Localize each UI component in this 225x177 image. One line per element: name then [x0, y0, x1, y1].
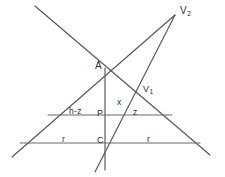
- vertex-label-v2-subscript: 2: [187, 10, 191, 17]
- vertex-label-c: C: [97, 136, 104, 145]
- vertex-label-v2: V2: [180, 6, 191, 16]
- segment-label-z: z: [133, 108, 138, 117]
- vertex-label-v2-letter: V: [180, 5, 187, 16]
- segment-label-x: x: [117, 98, 122, 107]
- line-upperleft-through-a-to-lowerright: [35, 6, 210, 155]
- line-lowerleft-through-c-v1-to-v2: [95, 15, 175, 172]
- segment-label-r-left: r: [62, 135, 65, 144]
- vertex-label-v1-subscript: 1: [150, 88, 154, 95]
- diagram-canvas: [0, 0, 225, 177]
- segment-label-h-minus-z: h-z: [69, 107, 82, 116]
- vertex-label-p: P: [97, 109, 103, 118]
- vertex-label-v1-letter: V: [143, 84, 149, 94]
- vertex-label-v1: V1: [143, 85, 153, 94]
- geometry-diagram: V2 V1 A P C x h-z z r r: [0, 0, 225, 177]
- vertex-label-a: A: [95, 61, 102, 71]
- segment-label-r-right: r: [147, 135, 150, 144]
